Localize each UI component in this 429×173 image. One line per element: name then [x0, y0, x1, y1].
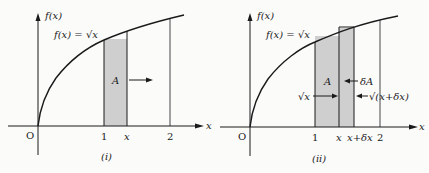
delta-a-shading: [339, 28, 354, 127]
x-axis-arrow-icon: [409, 125, 418, 130]
growth-arrow-head-icon: [146, 78, 153, 83]
y-axis-label: f(x): [44, 10, 62, 21]
y-axis-arrow-icon: [248, 13, 253, 21]
origin-label: O: [26, 130, 34, 141]
area-label: A: [111, 75, 119, 86]
y-axis-arrow-icon: [36, 13, 41, 21]
sqrt-x-dx-arrow-head-icon: [356, 94, 362, 99]
x-axis-label: x: [419, 121, 425, 132]
curve-label: f(x) = √x: [265, 29, 310, 40]
sqrt-x-label: √x: [298, 91, 310, 102]
panel-i: f(x) f(x) = √x A O 1 x 2 x (i): [8, 10, 212, 162]
tick-label-x: x: [124, 131, 130, 142]
tick-label-x: x: [336, 132, 342, 143]
sqrt-x-dx-label: √(x+δx): [369, 91, 409, 102]
tick-label-1: 1: [312, 132, 318, 143]
curve-label: f(x) = √x: [53, 29, 98, 40]
origin-label: O: [238, 131, 246, 142]
panel-caption: (i): [101, 151, 112, 162]
delta-a-label: δA: [360, 76, 373, 87]
panel-caption: (ii): [312, 153, 326, 164]
tick-label-x-plus-dx: x+δx: [347, 132, 373, 143]
tick-label-2: 2: [167, 131, 173, 142]
panel-ii: f(x) f(x) = √x A δA √x √(x+δx) O 1 x x+δ…: [220, 10, 425, 164]
tick-label-1: 1: [101, 131, 107, 142]
x-axis-label: x: [206, 120, 212, 131]
y-axis-label: f(x): [256, 10, 274, 21]
area-label: A: [323, 76, 331, 87]
x-axis-arrow-icon: [195, 124, 204, 129]
tick-label-2: 2: [377, 132, 383, 143]
